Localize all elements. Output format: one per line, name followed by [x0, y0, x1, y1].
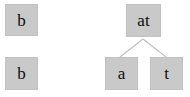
node-left-top[interactable]: b [5, 4, 38, 36]
node-label: a [118, 65, 126, 82]
node-label: b [17, 65, 26, 82]
diagram-canvas: b b at a t [0, 0, 190, 97]
edge-root-to-left-child [120, 39, 143, 57]
node-tree-root[interactable]: at [126, 4, 161, 37]
node-label: b [17, 12, 26, 29]
edge-root-to-right-child [143, 39, 166, 57]
node-tree-child-right[interactable]: t [150, 57, 183, 90]
node-label: at [137, 12, 149, 29]
node-left-bottom[interactable]: b [5, 57, 38, 90]
node-tree-child-left[interactable]: a [105, 57, 138, 90]
node-label: t [164, 65, 169, 82]
